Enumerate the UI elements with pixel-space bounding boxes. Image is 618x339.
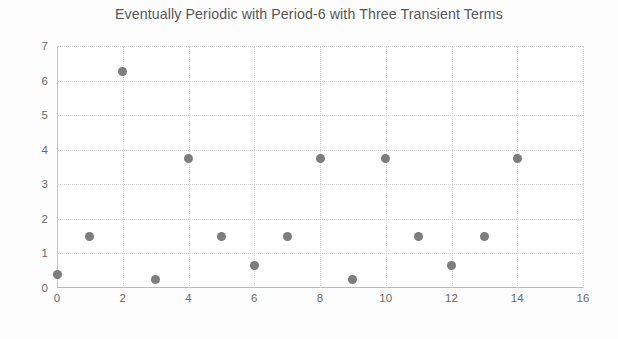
y-axis-tick-labels: 01234567 bbox=[14, 46, 48, 288]
y-tick-label: 1 bbox=[18, 247, 48, 259]
gridline-vertical bbox=[386, 46, 387, 288]
data-point bbox=[250, 261, 259, 270]
x-tick-label: 16 bbox=[563, 292, 603, 304]
y-tick-label: 3 bbox=[18, 178, 48, 190]
data-point bbox=[414, 232, 423, 241]
y-tick-label: 7 bbox=[18, 40, 48, 52]
data-point bbox=[316, 154, 325, 163]
x-tick-label: 8 bbox=[300, 292, 340, 304]
data-point bbox=[513, 154, 522, 163]
gridline-vertical bbox=[320, 46, 321, 288]
gridline-vertical bbox=[123, 46, 124, 288]
y-tick-label: 2 bbox=[18, 213, 48, 225]
x-tick-label: 10 bbox=[366, 292, 406, 304]
data-point bbox=[480, 232, 489, 241]
x-tick-label: 2 bbox=[103, 292, 143, 304]
data-point bbox=[151, 275, 160, 284]
data-point bbox=[184, 154, 193, 163]
x-axis-tick-labels: 0246810121416 bbox=[57, 292, 583, 312]
gridline-vertical bbox=[517, 46, 518, 288]
data-point bbox=[447, 261, 456, 270]
x-tick-label: 12 bbox=[432, 292, 472, 304]
y-tick-label: 4 bbox=[18, 144, 48, 156]
chart-title: Eventually Periodic with Period-6 with T… bbox=[0, 6, 618, 22]
data-point bbox=[283, 232, 292, 241]
chart-figure: Eventually Periodic with Period-6 with T… bbox=[0, 0, 618, 339]
x-tick-label: 4 bbox=[169, 292, 209, 304]
y-tick-label: 5 bbox=[18, 109, 48, 121]
x-tick-label: 0 bbox=[37, 292, 77, 304]
gridline-vertical bbox=[254, 46, 255, 288]
x-tick-label: 14 bbox=[497, 292, 537, 304]
plot-area bbox=[57, 46, 583, 288]
data-point bbox=[85, 232, 94, 241]
y-tick-label: 6 bbox=[18, 75, 48, 87]
x-tick-label: 6 bbox=[234, 292, 274, 304]
data-point bbox=[53, 270, 62, 279]
data-point bbox=[217, 232, 226, 241]
gridline-vertical bbox=[189, 46, 190, 288]
gridline-vertical bbox=[583, 46, 584, 288]
gridline-vertical bbox=[452, 46, 453, 288]
